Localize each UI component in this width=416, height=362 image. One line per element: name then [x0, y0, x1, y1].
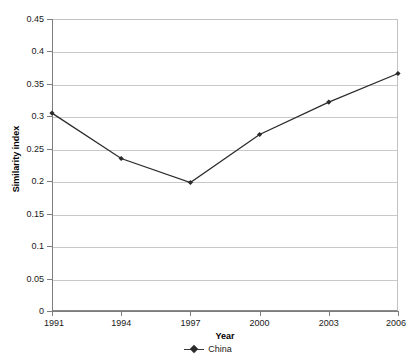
y-axis-tick: [47, 51, 52, 52]
x-axis-tick: [329, 311, 330, 316]
x-axis-tick: [398, 311, 399, 316]
legend-item-label: China: [208, 344, 232, 354]
y-axis-tick-label: 0.25: [26, 145, 44, 154]
y-axis-tick-label: 0.35: [26, 80, 44, 89]
gridline: [53, 52, 397, 53]
gridline: [53, 280, 397, 281]
x-axis-line: [52, 311, 399, 312]
gridline: [53, 215, 397, 216]
y-axis-tick-label: 0.15: [26, 210, 44, 219]
x-axis-tick: [52, 311, 53, 316]
x-axis-tick-label: 2006: [386, 318, 406, 328]
y-axis-tick: [47, 181, 52, 182]
y-axis-tick-label: 0.45: [26, 15, 44, 24]
y-axis-tick-label: 0.05: [26, 275, 44, 284]
x-axis-tick: [260, 311, 261, 316]
legend-line-marker-icon: [184, 345, 204, 354]
y-axis-title: Similarity index: [11, 99, 21, 219]
y-axis-tick: [47, 116, 52, 117]
y-axis-tick: [47, 149, 52, 150]
cropped-caption-remnant: · · ·: [130, 0, 410, 3]
y-axis-line: [52, 19, 53, 312]
x-axis-tick-label: 2000: [250, 318, 270, 328]
gridline: [53, 85, 397, 86]
gridline: [53, 150, 397, 151]
y-axis-tick: [47, 19, 52, 20]
plot-area: [52, 19, 398, 311]
y-axis-tick-label: 0.3: [31, 112, 44, 121]
y-axis-tick: [47, 84, 52, 85]
y-axis-tick-label: 0.4: [31, 47, 44, 56]
x-axis-tick-label: 1994: [111, 318, 131, 328]
legend-item-china[interactable]: China: [184, 344, 232, 354]
x-axis-tick-label: 2003: [319, 318, 339, 328]
x-axis-tick-label: 1991: [44, 318, 64, 328]
x-axis-tick: [190, 311, 191, 316]
y-axis-tick-label: 0.2: [31, 177, 44, 186]
chart-figure: · · · Similarity index Year China 00.050…: [0, 0, 416, 362]
x-axis-tick: [121, 311, 122, 316]
y-axis-tick-label: 0.1: [31, 242, 44, 251]
gridline: [53, 182, 397, 183]
y-axis-tick-label: 0: [39, 307, 44, 316]
y-axis-tick: [47, 214, 52, 215]
gridline: [53, 117, 397, 118]
x-axis-tick-label: 1997: [180, 318, 200, 328]
y-axis-tick: [47, 246, 52, 247]
gridline: [53, 247, 397, 248]
chart-legend: China: [0, 344, 416, 354]
x-axis-title: Year: [52, 331, 398, 341]
y-axis-tick: [47, 279, 52, 280]
